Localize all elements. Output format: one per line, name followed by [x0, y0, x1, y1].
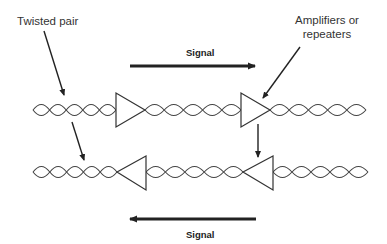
amplifier-triangle: [117, 156, 146, 190]
pointer-arrow: [72, 122, 84, 160]
amplifier-triangle: [116, 93, 145, 127]
twisted-pair-label: Twisted pair: [17, 14, 78, 28]
amplifiers-label-line1: Amplifiers or: [279, 13, 375, 27]
pointer-arrow: [263, 47, 300, 98]
amplifiers-label-line2: repeaters: [279, 27, 375, 41]
signal-label-top: Signal: [186, 47, 215, 58]
signal-label-bottom: Signal: [186, 229, 215, 240]
amplifiers-label: Amplifiers or repeaters: [279, 13, 375, 41]
pointer-arrow: [44, 31, 64, 95]
diagram-canvas: Twisted pair Amplifiers or repeaters Sig…: [0, 0, 387, 244]
amplifier-triangle: [243, 156, 273, 190]
amplifier-triangle: [241, 93, 270, 127]
